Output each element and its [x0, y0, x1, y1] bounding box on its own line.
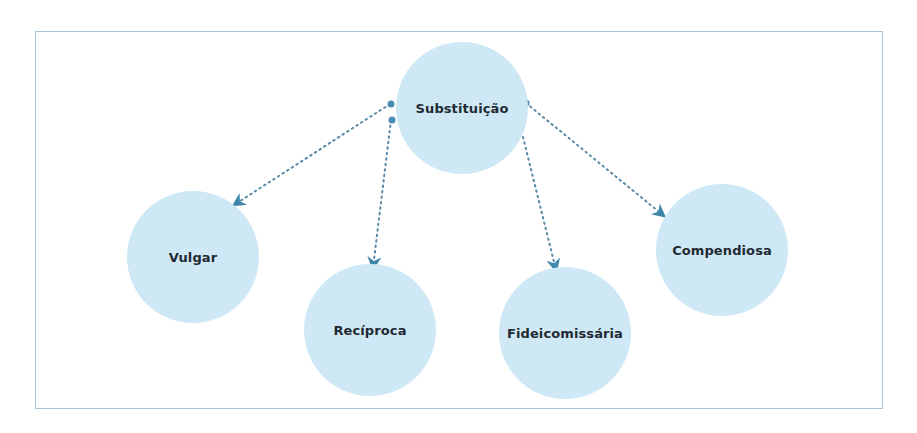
node-substituicao: Substituição	[396, 42, 528, 174]
connector-dot-icon	[389, 117, 396, 124]
edge-reciproca	[373, 120, 391, 268]
node-label: Compendiosa	[672, 243, 772, 258]
node-label: Recíproca	[333, 323, 406, 338]
node-label: Substituição	[416, 101, 509, 116]
node-label: Fideicomissária	[507, 326, 623, 341]
node-reciproca: Recíproca	[304, 264, 436, 396]
node-fideicomissaria: Fideicomissária	[499, 267, 631, 399]
node-vulgar: Vulgar	[127, 191, 259, 323]
edge-compendiosa	[526, 103, 664, 216]
connector-dot-icon	[388, 101, 395, 108]
node-compendiosa: Compendiosa	[656, 184, 788, 316]
edge-vulgar	[234, 104, 390, 205]
node-label: Vulgar	[169, 250, 217, 265]
edge-fideicomissaria	[519, 121, 556, 270]
